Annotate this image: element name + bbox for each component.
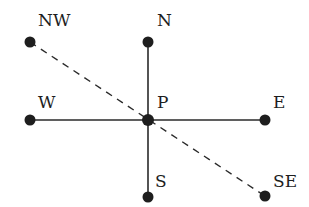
point-n	[143, 37, 154, 48]
label-w: W	[38, 94, 55, 111]
point-nw	[25, 37, 36, 48]
label-s: S	[155, 173, 167, 190]
point-e	[260, 115, 271, 126]
label-p: P	[157, 94, 168, 111]
label-se: SE	[273, 173, 297, 190]
point-w	[25, 115, 36, 126]
compass-diagram: NW N W P E S SE	[0, 0, 309, 207]
label-nw: NW	[38, 12, 70, 29]
point-p	[142, 114, 154, 126]
point-se	[260, 191, 271, 202]
label-e: E	[273, 94, 285, 111]
label-n: N	[157, 12, 172, 29]
point-s	[143, 192, 154, 203]
